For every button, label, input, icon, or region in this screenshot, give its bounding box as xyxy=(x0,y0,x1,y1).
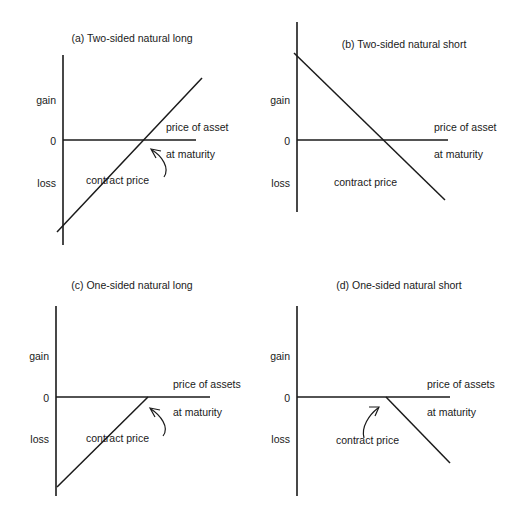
panel-d-x-label-line2: at maturity xyxy=(427,406,477,418)
panel-a-two-sided-natural-long: (a) Two-sided natural long gain 0 loss p… xyxy=(0,0,264,264)
panel-b-zero-label: 0 xyxy=(284,135,290,147)
panel-d-gain-label: gain xyxy=(270,350,290,362)
panel-a-x-label-line1: price of asset xyxy=(166,121,229,133)
panel-b-loss-label: loss xyxy=(271,177,290,189)
panel-d-contract-price-label: contract price xyxy=(336,434,399,446)
panel-b-gain-label: gain xyxy=(270,94,290,106)
panel-d-x-label-line1: price of assets xyxy=(427,378,495,390)
panel-a-loss-label: loss xyxy=(37,177,56,189)
panel-a-title: (a) Two-sided natural long xyxy=(71,32,192,44)
panel-c-one-sided-natural-long: (c) One-sided natural long gain 0 loss p… xyxy=(0,264,264,527)
panel-d-zero-label: 0 xyxy=(284,392,290,404)
panel-a-contract-price-label: contract price xyxy=(86,174,149,186)
panel-c-contract-price-label: contract price xyxy=(86,432,149,444)
panel-a-gain-label: gain xyxy=(36,94,56,106)
panel-d-loss-label: loss xyxy=(271,433,290,445)
panel-a-zero-label: 0 xyxy=(50,135,56,147)
panel-b-x-label-line1: price of asset xyxy=(434,121,497,133)
panel-c-zero-label: 0 xyxy=(43,392,49,404)
panel-c-gain-label: gain xyxy=(29,350,49,362)
panel-c-x-label-line1: price of assets xyxy=(173,378,241,390)
panel-c-x-label-line2: at maturity xyxy=(173,406,223,418)
panel-d-one-sided-natural-short: (d) One-sided natural short gain 0 loss … xyxy=(264,264,528,527)
panel-c-title: (c) One-sided natural long xyxy=(71,279,193,291)
panel-a-x-label-line2: at maturity xyxy=(166,148,216,160)
panel-b-contract-price-label: contract price xyxy=(334,176,397,188)
panel-b-title: (b) Two-sided natural short xyxy=(342,38,467,50)
panel-d-title: (d) One-sided natural short xyxy=(336,279,462,291)
payoff-diagram-figure: (a) Two-sided natural long gain 0 loss p… xyxy=(0,0,528,527)
panel-b-x-label-line2: at maturity xyxy=(434,148,484,160)
panel-b-two-sided-natural-short: (b) Two-sided natural short gain 0 loss … xyxy=(264,0,528,264)
panel-c-loss-label: loss xyxy=(30,433,49,445)
